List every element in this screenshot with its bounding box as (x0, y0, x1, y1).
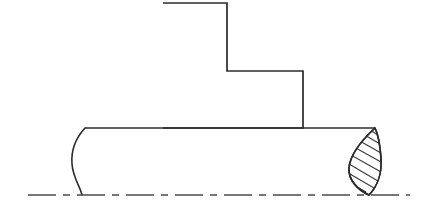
right-revolved-section (349, 128, 381, 196)
drawing-svg (0, 0, 436, 213)
l-boss-outline (163, 3, 303, 128)
left-conventional-break (72, 128, 85, 195)
left-break-curve (72, 128, 85, 195)
technical-drawing-canvas (0, 0, 436, 213)
l-shaped-boss (163, 3, 303, 128)
